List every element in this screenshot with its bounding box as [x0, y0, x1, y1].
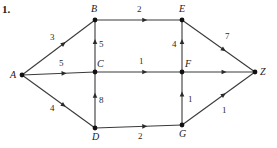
edge-weight-a-b: 3 [50, 33, 55, 42]
edge-weight-a-d: 4 [50, 104, 55, 113]
edge-line [22, 75, 95, 128]
graph-node-z [253, 70, 258, 75]
edge-arrowhead-icon [61, 71, 66, 76]
edge-line [22, 72, 95, 75]
node-label-z: Z [260, 67, 266, 77]
graph-node-c [93, 70, 98, 75]
graph-edge-a-c [22, 71, 95, 76]
graph-edge-d-g [95, 124, 182, 129]
edge-weight-a-c: 5 [59, 59, 64, 68]
edge-weight-b-e: 2 [137, 5, 142, 14]
edge-weight-e-z: 7 [225, 32, 230, 41]
graph-edge-c-f [95, 70, 182, 75]
edge-arrowhead-icon [220, 46, 225, 51]
edge-weight-g-z: 1 [222, 106, 227, 115]
graph-edge-g-f [180, 72, 185, 125]
graph-node-e [180, 18, 185, 23]
edge-arrowhead-icon [93, 39, 98, 44]
graph-canvas [0, 0, 277, 148]
node-label-f: F [185, 59, 191, 69]
node-label-g: G [179, 129, 186, 139]
edge-arrowhead-icon [93, 93, 98, 98]
graph-node-b [93, 18, 98, 23]
edge-weight-c-b: 5 [99, 40, 104, 49]
edge-weight-c-f: 1 [139, 57, 144, 66]
edge-line [182, 72, 255, 125]
edge-arrowhead-icon [220, 93, 225, 98]
graph-node-d [93, 126, 98, 131]
edge-arrowhead-icon [142, 18, 147, 23]
edge-line [95, 125, 182, 128]
graph-edge-f-e [180, 20, 185, 72]
edge-weight-d-c: 8 [99, 96, 104, 105]
node-label-e: E [179, 4, 185, 14]
edge-weight-g-f: 1 [188, 95, 193, 104]
node-label-a: A [10, 70, 16, 80]
edge-weight-d-g: 2 [138, 132, 143, 141]
graph-edge-f-z [182, 70, 255, 75]
graph-edge-e-z [182, 20, 255, 72]
node-label-b: B [91, 4, 97, 14]
graph-figure: 1. ABCDEFGZ354582124171 [0, 0, 277, 148]
graph-edge-b-e [95, 18, 182, 23]
edge-line [182, 20, 255, 72]
edge-arrowhead-icon [142, 124, 147, 129]
graph-edge-g-z [182, 72, 255, 125]
graph-node-f [180, 70, 185, 75]
edge-arrowhead-icon [142, 70, 147, 75]
graph-node-g [180, 123, 185, 128]
edge-weight-f-e: 4 [172, 40, 177, 49]
node-label-c: C [97, 59, 104, 69]
edge-arrowhead-icon [180, 39, 185, 44]
node-label-d: D [92, 132, 99, 142]
graph-node-a [20, 73, 25, 78]
graph-edge-a-d [22, 75, 95, 128]
edge-arrowhead-icon [180, 91, 185, 96]
edge-arrowhead-icon [222, 70, 227, 75]
edge-arrowhead-icon [60, 102, 65, 107]
graph-edge-d-c [93, 72, 98, 128]
